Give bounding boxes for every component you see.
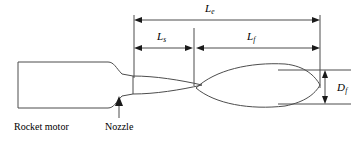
- nozzle-bottom-wall: [122, 94, 133, 96]
- arrowhead-Lf-right: [312, 45, 320, 51]
- arrowhead-Df-bottom: [322, 96, 328, 104]
- callout-nozzle: Nozzle: [105, 122, 133, 132]
- nozzle-top-wall: [122, 74, 133, 76]
- arrowhead-Le-left: [134, 17, 142, 23]
- label-Df-symbol: D: [337, 81, 345, 93]
- label-Le-subscript: e: [211, 7, 214, 16]
- nozzle-leader-arrowhead: [115, 96, 123, 106]
- arrowhead-Df-top: [322, 70, 328, 78]
- arrowhead-Ls-right: [185, 45, 193, 51]
- shock-cell-2-upper: [196, 64, 320, 88]
- arrowhead-Ls-left: [134, 45, 142, 51]
- motor-top-wall: [18, 62, 122, 74]
- label-Df-subscript: f: [345, 86, 347, 95]
- motor-bottom-wall: [18, 96, 122, 108]
- rocket-plume-diagram: Le Ls Lf Df Rocket motor Nozzle: [0, 0, 361, 148]
- label-plume-diameter: Df: [337, 82, 347, 95]
- shock-cell-1-lower: [133, 85, 202, 94]
- label-Ls-subscript: s: [163, 35, 166, 44]
- label-Lf-subscript: f: [253, 35, 255, 44]
- label-flame-length: Lf: [247, 31, 255, 44]
- arrowhead-Le-right: [312, 17, 320, 23]
- callout-rocket-motor: Rocket motor: [14, 122, 69, 132]
- arrowhead-Lf-left: [196, 45, 204, 51]
- label-plume-total-length: Le: [205, 3, 215, 16]
- label-shock-cell-length: Ls: [157, 31, 166, 44]
- shock-cell-1-upper: [133, 76, 202, 85]
